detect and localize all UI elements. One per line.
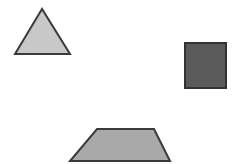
shapes-canvas [0, 0, 232, 164]
triangle-shape [15, 9, 70, 54]
square-shape [185, 43, 226, 88]
trapezoid-shape [70, 129, 170, 161]
